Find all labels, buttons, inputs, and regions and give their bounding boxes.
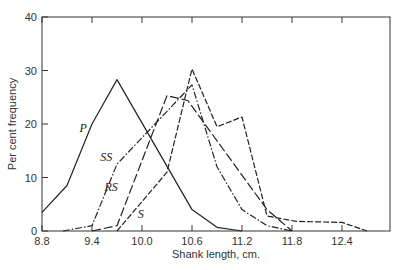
- x-tick-label: 12.4: [331, 235, 352, 247]
- y-axis-title: Per cent frequency: [6, 77, 18, 170]
- series-line-rs: [92, 96, 292, 231]
- series-labels: PSSRSS: [79, 121, 144, 221]
- x-tick-label: 11.2: [232, 235, 253, 247]
- y-tick-label: 30: [25, 65, 37, 77]
- series-label-ss: SS: [100, 150, 112, 164]
- line-chart: 010203040 8.89.410.010.611.211.812.4 PSS…: [0, 0, 404, 270]
- x-tick-label: 9.4: [84, 235, 99, 247]
- series-line-ss: [63, 85, 292, 231]
- y-tick-label: 10: [25, 172, 37, 184]
- x-tick-label: 10.6: [181, 235, 202, 247]
- x-tick-label: 11.8: [282, 235, 303, 247]
- y-axis: 010203040: [25, 11, 48, 237]
- x-axis-title: Shank length, cm.: [172, 248, 260, 260]
- y-tick-label: 40: [25, 11, 37, 23]
- x-tick-label: 8.8: [34, 235, 49, 247]
- y-tick-label: 20: [25, 118, 37, 130]
- series-label-s: S: [138, 207, 144, 221]
- series-label-p: P: [79, 121, 88, 135]
- x-tick-label: 10.0: [131, 235, 152, 247]
- series-label-rs: RS: [104, 180, 118, 194]
- series-lines: [42, 69, 367, 231]
- series-line-s: [117, 69, 367, 231]
